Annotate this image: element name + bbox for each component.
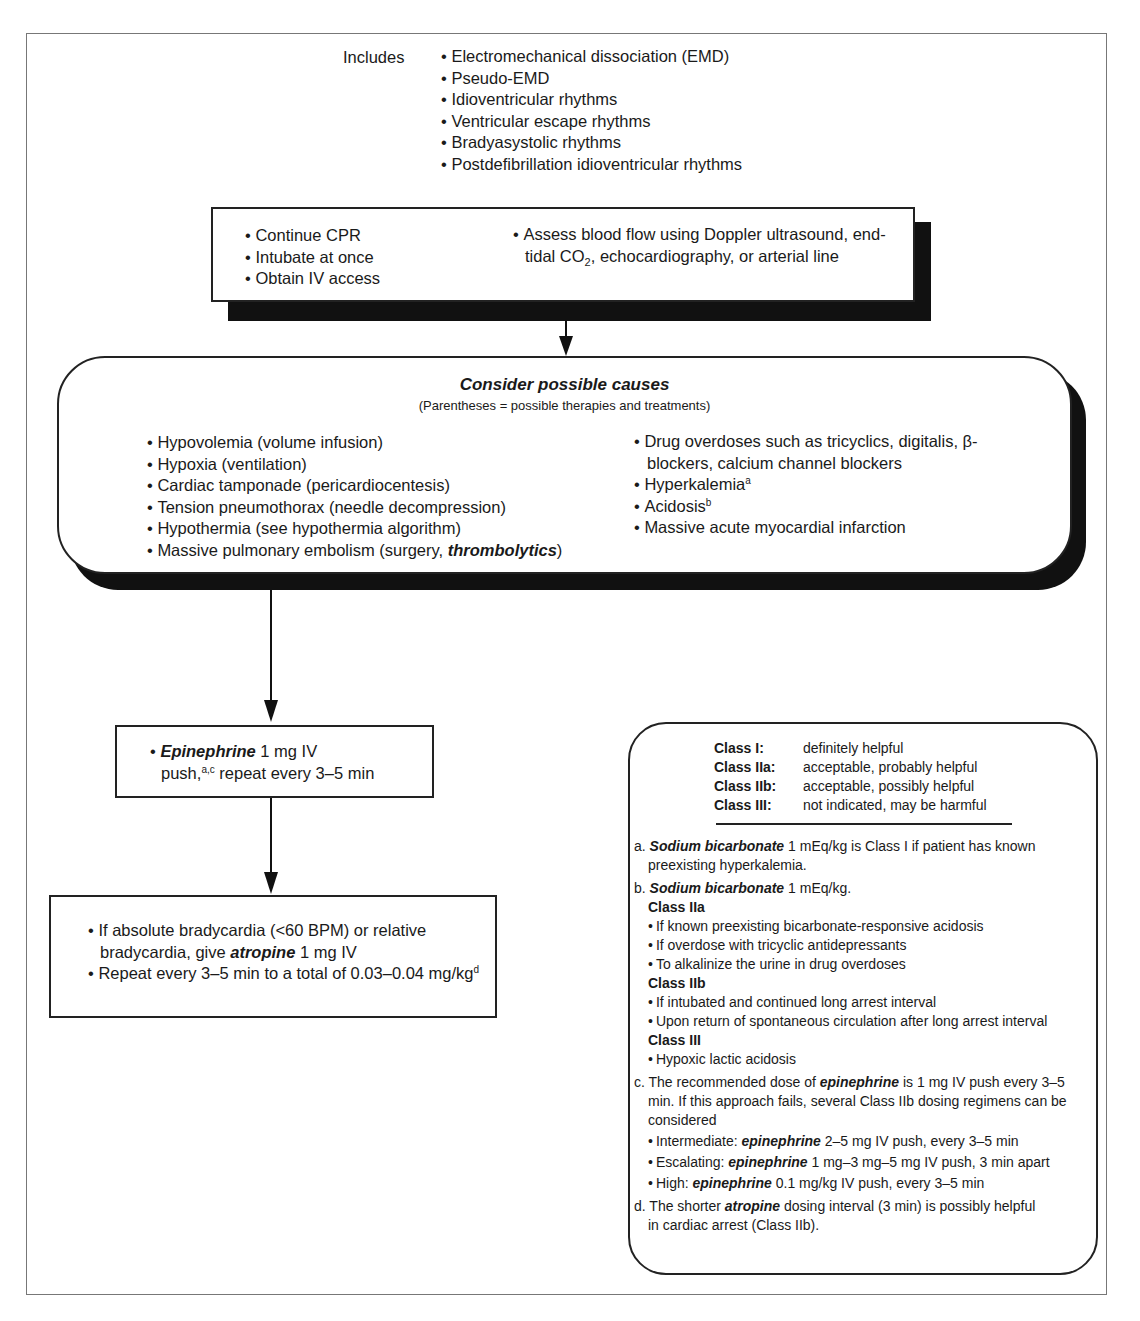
cause-item: Tension pneumothorax (needle decompressi…	[147, 497, 562, 519]
footnotes: a. Sodium bicarbonate 1 mEq/kg is Class …	[634, 837, 1094, 1239]
arrow-down-icon	[559, 336, 573, 356]
arrow-down-icon	[264, 700, 278, 722]
arrow-line	[270, 590, 272, 705]
action-item: Continue CPR	[245, 225, 380, 247]
causes-left-list: Hypovolemia (volume infusion) Hypoxia (v…	[147, 432, 562, 561]
arrow-line	[270, 798, 272, 875]
causes-title: Consider possible causes	[59, 375, 1070, 395]
includes-list: Electromechanical dissociation (EMD) Pse…	[441, 46, 742, 175]
footnote-b: b. Sodium bicarbonate 1 mEq/kg. Class II…	[634, 879, 1094, 1069]
class-legend-table: Class I:definitely helpful Class IIa:acc…	[714, 739, 987, 815]
footnote-bullet: Hypoxic lactic acidosis	[648, 1050, 1094, 1069]
footnote-bullet: If known preexisting bicarbonate-respons…	[648, 917, 1094, 936]
class-heading: Class IIa	[648, 898, 1094, 917]
class-row: Class IIa:acceptable, probably helpful	[714, 758, 987, 777]
includes-item: Bradyasystolic rhythms	[441, 132, 742, 154]
includes-item: Ventricular escape rhythms	[441, 111, 742, 133]
cause-item: Hyperkalemiaa	[634, 474, 1014, 496]
atropine-list: If absolute bradycardia (<60 BPM) or rel…	[88, 920, 488, 985]
epinephrine-box: • Epinephrine 1 mg IV push,a,c repeat ev…	[115, 725, 434, 798]
cause-item: Hypothermia (see hypothermia algorithm)	[147, 518, 562, 540]
cause-item: Acidosisb	[634, 496, 1014, 518]
footnote-bullet: If overdose with tricyclic antidepressan…	[648, 936, 1094, 955]
class-row: Class III:not indicated, may be harmful	[714, 796, 987, 815]
cause-item: Drug overdoses such as tricyclics, digit…	[634, 431, 1014, 474]
includes-item: Postdefibrillation idioventricular rhyth…	[441, 154, 742, 176]
atropine-item: If absolute bradycardia (<60 BPM) or rel…	[88, 920, 488, 963]
initial-actions-box: Continue CPR Intubate at once Obtain IV …	[211, 207, 915, 302]
cause-item: Massive acute myocardial infarction	[634, 517, 1014, 539]
includes-item: Pseudo-EMD	[441, 68, 742, 90]
footnote-bullet: If intubated and continued long arrest i…	[648, 993, 1094, 1012]
regimen-item: Intermediate: epinephrine 2–5 mg IV push…	[648, 1132, 1088, 1151]
regimen-item: High: epinephrine 0.1 mg/kg IV push, eve…	[648, 1174, 1088, 1193]
class-heading: Class IIb	[648, 974, 1094, 993]
footnote-bullet: To alkalinize the urine in drug overdose…	[648, 955, 1094, 974]
cause-item: Massive pulmonary embolism (surgery, thr…	[147, 540, 562, 562]
regimen-item: Escalating: epinephrine 1 mg–3 mg–5 mg I…	[648, 1153, 1088, 1172]
cause-item: Hypoxia (ventilation)	[147, 454, 562, 476]
atropine-box: If absolute bradycardia (<60 BPM) or rel…	[49, 895, 497, 1018]
legend-notes-box: Class I:definitely helpful Class IIa:acc…	[628, 722, 1098, 1275]
class-row: Class I:definitely helpful	[714, 739, 987, 758]
atropine-item: Repeat every 3–5 min to a total of 0.03–…	[88, 963, 488, 985]
class-heading: Class III	[648, 1031, 1094, 1050]
class-row: Class IIb:acceptable, possibly helpful	[714, 777, 987, 796]
cause-item: Cardiac tamponade (pericardiocentesis)	[147, 475, 562, 497]
assess-blood-flow-item: Assess blood flow using Doppler ultrasou…	[513, 224, 898, 267]
initial-actions-list: Continue CPR Intubate at once Obtain IV …	[245, 225, 380, 290]
causes-subtitle: (Parentheses = possible therapies and tr…	[59, 398, 1070, 413]
assess-blood-flow-list: Assess blood flow using Doppler ultrasou…	[513, 224, 898, 267]
footnote-bullet: Upon return of spontaneous circulation a…	[648, 1012, 1057, 1031]
action-item: Intubate at once	[245, 247, 380, 269]
cause-item: Hypovolemia (volume infusion)	[147, 432, 562, 454]
footnote-a: a. Sodium bicarbonate 1 mEq/kg is Class …	[634, 837, 1094, 875]
includes-item: Electromechanical dissociation (EMD)	[441, 46, 742, 68]
divider	[716, 823, 1012, 825]
footnote-d: d. The shorter atropine dosing interval …	[634, 1197, 1038, 1235]
causes-right-list: Drug overdoses such as tricyclics, digit…	[634, 431, 1014, 539]
epinephrine-instruction: • Epinephrine 1 mg IV push,a,c repeat ev…	[150, 741, 430, 784]
footnote-c: c. The recommended dose of epinephrine i…	[634, 1073, 1088, 1193]
possible-causes-box: Consider possible causes (Parentheses = …	[57, 356, 1072, 574]
action-item: Obtain IV access	[245, 268, 380, 290]
arrow-down-icon	[264, 872, 278, 894]
includes-label: Includes	[343, 47, 404, 69]
includes-item: Idioventricular rhythms	[441, 89, 742, 111]
